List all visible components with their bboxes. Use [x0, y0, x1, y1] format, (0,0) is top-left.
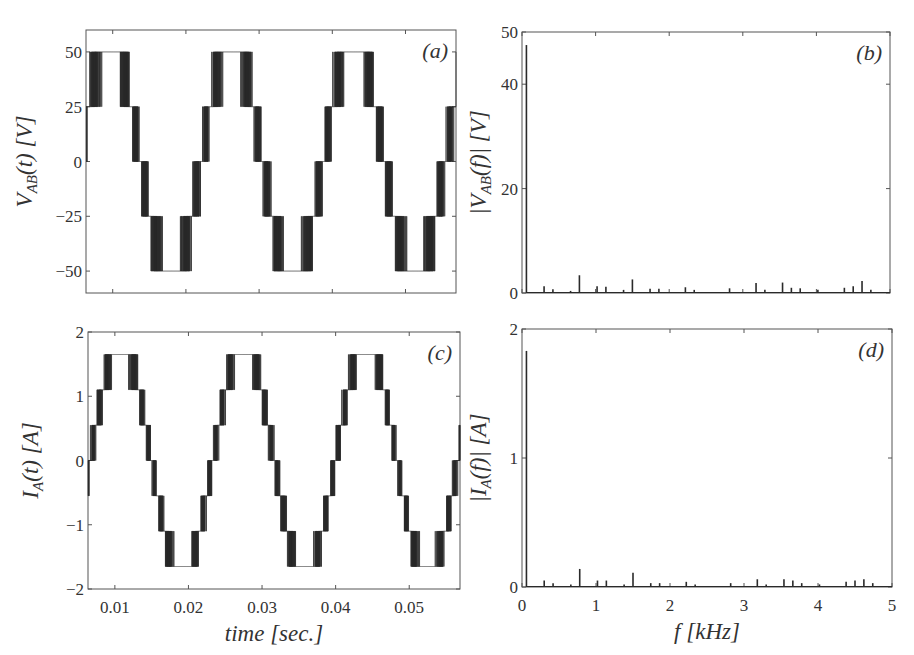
y-tick-label: 2 [76, 323, 85, 342]
y-tick-label: 2 [510, 320, 519, 339]
plot-frame [522, 329, 892, 587]
panel-b-voltage-spectrum: 0204050(b)|VAB(f)| [V] [466, 23, 890, 303]
y-tick-label: 25 [65, 98, 82, 117]
waveform-trace [86, 52, 456, 271]
x-tick-label: 0.03 [247, 598, 277, 617]
figure: 50250−25−50(a)VAB(t) [V] 0204050(b)|VAB(… [0, 0, 914, 655]
y-tick-label: 20 [501, 180, 518, 199]
x-tick-label: 3 [740, 596, 749, 615]
y-tick-label: −2 [66, 580, 84, 599]
y-axis-label: VAB(t) [V] [12, 116, 40, 208]
y-tick-label: −1 [66, 516, 84, 535]
panel-label: (b) [856, 40, 882, 65]
x-tick-label: 4 [814, 596, 823, 615]
y-tick-label: 0 [510, 284, 519, 303]
x-tick-label: 0.04 [321, 598, 351, 617]
y-tick-label: −25 [55, 207, 82, 226]
waveform-trace [88, 354, 460, 566]
y-tick-label: 0 [74, 153, 83, 172]
panel-label: (a) [422, 38, 448, 63]
y-tick-label: 40 [501, 75, 518, 94]
y-axis-label: IA(t) [A] [18, 422, 46, 499]
panel-c-current-time: 210−1−20.010.020.030.040.05(c)IA(t) [A]t… [18, 323, 460, 646]
x-tick-label: 0.02 [174, 598, 204, 617]
y-tick-label: 50 [65, 43, 82, 62]
panel-d-current-spectrum: 012012345(d)|IA(f)| [A]f [kHz] [466, 320, 896, 644]
panel-label: (d) [858, 337, 884, 362]
y-tick-label: 0 [76, 452, 85, 471]
y-tick-label: 50 [501, 23, 518, 42]
plot-frame [522, 32, 890, 293]
y-tick-label: −50 [55, 262, 82, 281]
x-tick-label: 5 [888, 596, 897, 615]
panel-a-voltage-time: 50250−25−50(a)VAB(t) [V] [12, 30, 456, 293]
x-tick-label: 0.01 [100, 598, 130, 617]
y-tick-label: 1 [510, 449, 519, 468]
y-axis-label: |IA(f)| [A] [466, 414, 494, 503]
panel-label: (c) [428, 340, 452, 365]
x-axis-label: time [sec.] [225, 621, 323, 646]
y-axis-label: |VAB(f)| [V] [466, 110, 494, 214]
x-tick-label: 1 [592, 596, 601, 615]
x-tick-label: 2 [666, 596, 675, 615]
x-axis-label: f [kHz] [674, 619, 740, 644]
x-tick-label: 0.05 [394, 598, 424, 617]
y-tick-label: 0 [510, 578, 519, 597]
y-tick-label: 1 [76, 387, 85, 406]
x-tick-label: 0 [518, 596, 527, 615]
